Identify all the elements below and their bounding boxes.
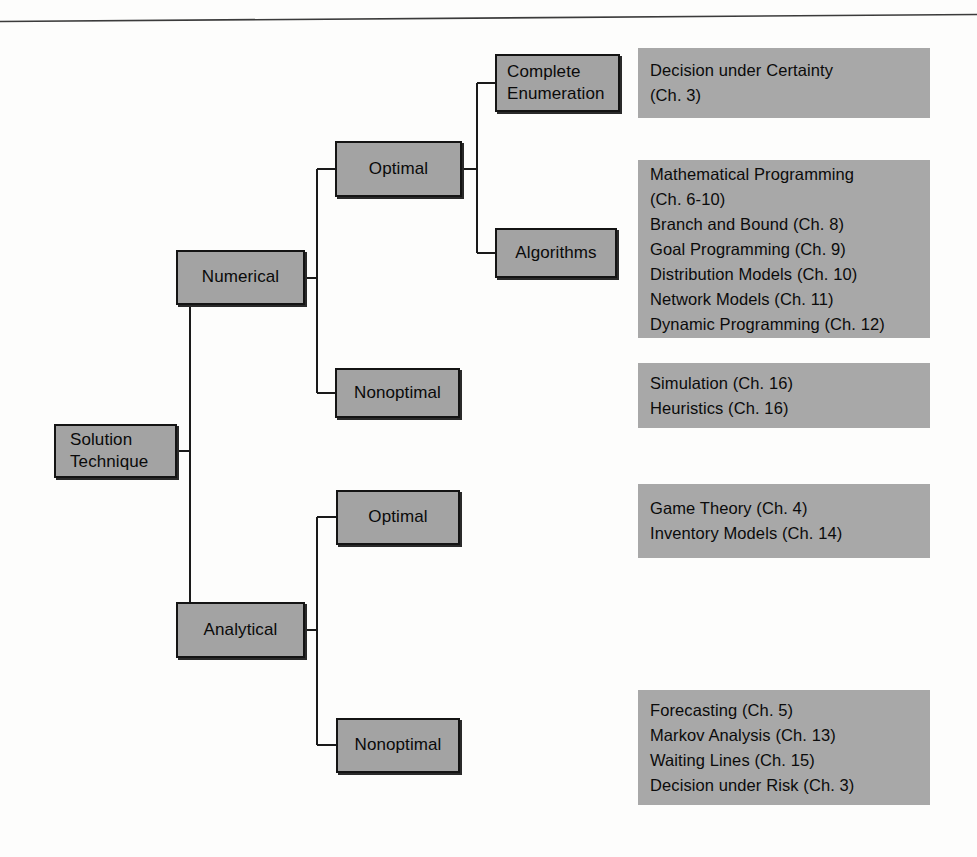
diagram-canvas: Solution Technique Numerical Analytical …	[0, 0, 977, 857]
panel-line: Markov Analysis (Ch. 13)	[650, 723, 930, 748]
node-analytical[interactable]: Analytical	[176, 602, 305, 658]
node-solution-technique-label-line1: Solution	[70, 429, 175, 451]
panel-line: Simulation (Ch. 16)	[650, 371, 930, 396]
node-analytical-optimal-label: Optimal	[368, 506, 427, 528]
panel-analytical-optimal: Game Theory (Ch. 4) Inventory Models (Ch…	[638, 484, 930, 558]
node-numerical[interactable]: Numerical	[176, 250, 305, 305]
node-complete-enumeration[interactable]: Complete Enumeration	[495, 54, 620, 112]
top-divider-rule	[0, 13, 977, 23]
node-numerical-optimal[interactable]: Optimal	[335, 141, 462, 197]
panel-line: (Ch. 6-10)	[650, 187, 930, 212]
panel-line: Mathematical Programming	[650, 162, 930, 187]
panel-line: Dynamic Programming (Ch. 12)	[650, 312, 930, 337]
node-complete-enumeration-label-line2: Enumeration	[507, 83, 618, 105]
node-solution-technique-label-line2: Technique	[70, 451, 175, 473]
node-numerical-nonoptimal-label: Nonoptimal	[354, 382, 441, 404]
panel-line: Heuristics (Ch. 16)	[650, 396, 930, 421]
node-analytical-nonoptimal-label: Nonoptimal	[355, 734, 442, 756]
node-analytical-optimal[interactable]: Optimal	[336, 490, 460, 545]
node-complete-enumeration-label-line1: Complete	[507, 61, 618, 83]
node-numerical-nonoptimal[interactable]: Nonoptimal	[335, 368, 460, 418]
panel-line: Branch and Bound (Ch. 8)	[650, 212, 930, 237]
node-algorithms[interactable]: Algorithms	[495, 228, 617, 278]
panel-line: Decision under Risk (Ch. 3)	[650, 773, 930, 798]
panel-line: Game Theory (Ch. 4)	[650, 496, 930, 521]
node-analytical-nonoptimal[interactable]: Nonoptimal	[336, 718, 460, 773]
panel-line: Inventory Models (Ch. 14)	[650, 521, 930, 546]
panel-numerical-nonoptimal: Simulation (Ch. 16) Heuristics (Ch. 16)	[638, 363, 930, 428]
node-numerical-label: Numerical	[202, 266, 279, 288]
panel-algorithms: Mathematical Programming (Ch. 6-10) Bran…	[638, 160, 930, 338]
panel-line: Decision under Certainty	[650, 58, 930, 83]
panel-line: Waiting Lines (Ch. 15)	[650, 748, 930, 773]
panel-line: Goal Programming (Ch. 9)	[650, 237, 930, 262]
node-solution-technique[interactable]: Solution Technique	[54, 424, 177, 478]
panel-complete-enumeration: Decision under Certainty (Ch. 3)	[638, 48, 930, 118]
node-analytical-label: Analytical	[204, 619, 278, 641]
panel-line: (Ch. 3)	[650, 83, 930, 108]
panel-analytical-nonoptimal: Forecasting (Ch. 5) Markov Analysis (Ch.…	[638, 690, 930, 805]
node-numerical-optimal-label: Optimal	[369, 158, 428, 180]
panel-line: Network Models (Ch. 11)	[650, 287, 930, 312]
panel-line: Distribution Models (Ch. 10)	[650, 262, 930, 287]
panel-line: Forecasting (Ch. 5)	[650, 698, 930, 723]
node-algorithms-label: Algorithms	[515, 242, 596, 264]
